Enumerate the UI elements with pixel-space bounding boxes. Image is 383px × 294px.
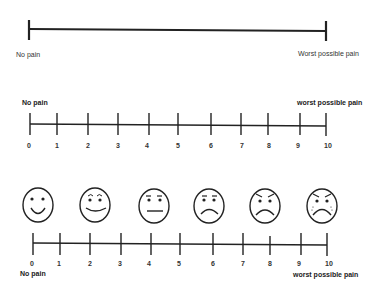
faces-scale-line (33, 233, 327, 256)
faces-tick-9: 9 (297, 260, 301, 267)
neutral-face-icon (139, 189, 169, 223)
faces-tick-0: 0 (30, 260, 34, 267)
faces-left-label: No pain (20, 270, 46, 277)
smiling-face-icon (23, 188, 53, 222)
frowning-face-icon (194, 189, 224, 223)
faces-tick-7: 7 (241, 260, 245, 267)
faces-tick-1: 1 (57, 260, 61, 267)
faces-tick-10: 10 (325, 260, 333, 267)
faces-tick-3: 3 (118, 260, 122, 267)
faces-tick-8: 8 (268, 260, 272, 267)
faces-tick-2: 2 (88, 260, 92, 267)
angry-frowning-face-icon (250, 189, 280, 223)
faces-row (0, 0, 383, 294)
faces-tick-6: 6 (211, 260, 215, 267)
slight-smile-face-icon (80, 188, 110, 222)
faces-right-label: worst possible pain (293, 271, 358, 278)
faces-tick-4: 4 (147, 260, 151, 267)
faces-tick-5: 5 (177, 260, 181, 267)
crying-face-icon (307, 189, 337, 223)
